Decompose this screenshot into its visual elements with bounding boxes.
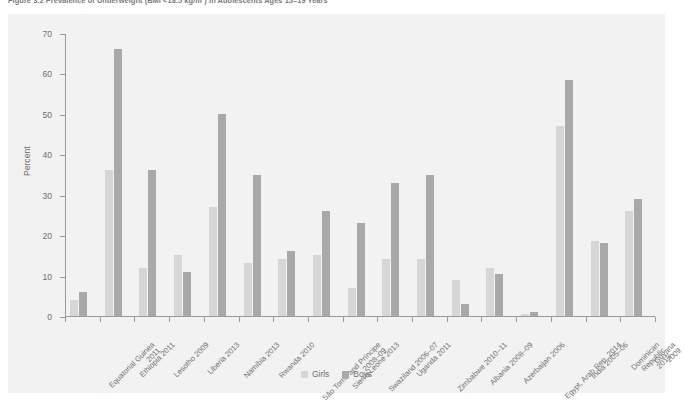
bar-girls [486, 268, 494, 317]
figure-caption: Figure 3.2 Prevalence of Underweight (BM… [8, 0, 328, 7]
legend-swatch-boys-icon [342, 371, 349, 378]
bar-boys [253, 175, 261, 317]
bar-girls [521, 314, 529, 316]
bar-boys [391, 183, 399, 316]
bar-group [516, 33, 551, 316]
bar-group [134, 33, 169, 316]
x-axis-tick [134, 317, 135, 322]
bar-group [100, 33, 135, 316]
legend-label-girls: Girls [312, 369, 329, 379]
x-axis-tick [204, 317, 205, 322]
bar-girls [382, 259, 390, 316]
bar-girls [139, 268, 147, 317]
bar-boys [461, 304, 469, 316]
bar-girls [174, 255, 182, 316]
x-axis-tick [169, 317, 170, 322]
x-axis-tick [308, 317, 309, 322]
bar-group [620, 33, 655, 316]
chart-legend: Girls Boys [8, 369, 665, 379]
y-axis-tick-label: 40 [42, 150, 52, 160]
x-axis-tick [447, 317, 448, 322]
x-axis-tick [273, 317, 274, 322]
bar-group [343, 33, 378, 316]
bar-girls [348, 288, 356, 316]
bar-boys [495, 274, 503, 316]
bar-girls [105, 170, 113, 316]
y-axis-title: Percent [22, 146, 32, 176]
bar-girls [313, 255, 321, 316]
bar-girls [556, 126, 564, 316]
bar-group [308, 33, 343, 316]
legend-item-boys: Boys [342, 369, 372, 379]
bar-group [481, 33, 516, 316]
bar-boys [634, 199, 642, 316]
bar-girls [244, 263, 252, 316]
x-axis-line [65, 316, 655, 317]
y-axis-tick-label: 0 [47, 312, 52, 322]
x-axis-tick [343, 317, 344, 322]
bar-girls [70, 300, 78, 316]
bar-boys [114, 49, 122, 316]
x-axis-tick [516, 317, 517, 322]
x-axis-tick [620, 317, 621, 322]
bar-girls [278, 259, 286, 316]
bar-girls [625, 211, 633, 316]
bar-boys [530, 312, 538, 316]
bar-group [377, 33, 412, 316]
bar-group [65, 33, 100, 316]
legend-swatch-girls-icon [301, 371, 308, 378]
x-axis-tick [377, 317, 378, 322]
bar-boys [218, 114, 226, 316]
bar-boys [79, 292, 87, 316]
bar-group [273, 33, 308, 316]
x-axis-tick [481, 317, 482, 322]
bar-boys [148, 170, 156, 316]
bar-boys [287, 251, 295, 316]
plot-area: 010203040506070 Equatorial Guinea 2011Et… [65, 34, 655, 317]
x-axis-tick [65, 317, 66, 322]
bar-boys [600, 243, 608, 316]
y-axis-tick-label: 10 [42, 272, 52, 282]
y-axis-tick-label: 20 [42, 231, 52, 241]
bar-boys [322, 211, 330, 316]
bar-boys [426, 175, 434, 317]
bar-girls [452, 280, 460, 316]
bar-girls [209, 207, 217, 316]
x-axis-tick [412, 317, 413, 322]
x-axis-tick [100, 317, 101, 322]
bar-group [551, 33, 586, 316]
bar-girls [591, 241, 599, 316]
bar-group [204, 33, 239, 316]
chart-figure: Percent 010203040506070 Equatorial Guine… [8, 14, 665, 393]
y-axis-tick-label: 60 [42, 69, 52, 79]
y-axis-tick-label: 50 [42, 110, 52, 120]
bar-boys [357, 223, 365, 316]
y-axis-tick-label: 30 [42, 191, 52, 201]
bar-group [169, 33, 204, 316]
bar-girls [417, 259, 425, 316]
bar-group [447, 33, 482, 316]
x-axis-tick [551, 317, 552, 322]
bar-group [239, 33, 274, 316]
legend-label-boys: Boys [353, 369, 372, 379]
y-axis-tick-label: 70 [42, 29, 52, 39]
x-axis-tick [655, 317, 656, 322]
bar-boys [183, 272, 191, 316]
bar-group [412, 33, 447, 316]
x-axis-tick [586, 317, 587, 322]
bar-group [586, 33, 621, 316]
bar-boys [565, 80, 573, 317]
legend-item-girls: Girls [301, 369, 329, 379]
x-axis-tick [239, 317, 240, 322]
